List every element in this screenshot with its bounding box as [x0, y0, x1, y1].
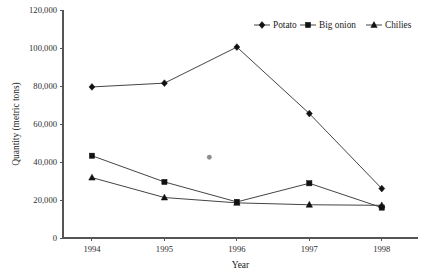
- x-tick-label: 1994: [83, 244, 101, 254]
- y-tick-label: 120,000: [29, 5, 57, 15]
- stray-mark: [207, 155, 212, 160]
- data-point-potato: [161, 80, 167, 87]
- data-point-potato: [89, 84, 95, 91]
- y-tick-label: 60,000: [33, 119, 57, 129]
- y-tick-label: 40,000: [33, 157, 57, 167]
- y-axis: 020,00040,00060,00080,000100,000120,000: [29, 5, 63, 243]
- y-axis-title: Quantity (metric tons): [11, 82, 22, 165]
- data-point-big-onion: [89, 153, 94, 158]
- legend-marker-potato: [259, 22, 265, 29]
- x-tick-label: 1998: [373, 244, 390, 254]
- series-line-potato: [92, 47, 382, 189]
- x-axis: 19941995199619971998: [63, 238, 418, 254]
- legend-marker-big-onion: [305, 22, 310, 27]
- chart-legend: PotatoBig onionChilies: [254, 20, 412, 30]
- y-tick-label: 0: [53, 233, 57, 243]
- y-tick-label: 80,000: [33, 81, 57, 91]
- annotation-layer: [207, 155, 212, 160]
- chart-container: 020,00040,00060,00080,000100,000120,000 …: [0, 0, 429, 277]
- data-point-big-onion: [307, 181, 312, 186]
- series-layer: [89, 44, 385, 211]
- data-point-chilies: [89, 174, 95, 180]
- legend-label-big-onion: Big onion: [319, 20, 356, 30]
- x-tick-label: 1995: [156, 244, 173, 254]
- y-tick-label: 100,000: [29, 43, 57, 53]
- x-tick-label: 1997: [301, 244, 319, 254]
- legend-label-chilies: Chilies: [385, 20, 412, 30]
- y-tick-label: 20,000: [33, 195, 57, 205]
- data-point-big-onion: [162, 179, 167, 184]
- line-chart: 020,00040,00060,00080,000100,000120,000 …: [0, 0, 429, 277]
- x-axis-title: Year: [232, 260, 250, 270]
- legend-label-potato: Potato: [273, 20, 297, 30]
- x-tick-label: 1996: [228, 244, 246, 254]
